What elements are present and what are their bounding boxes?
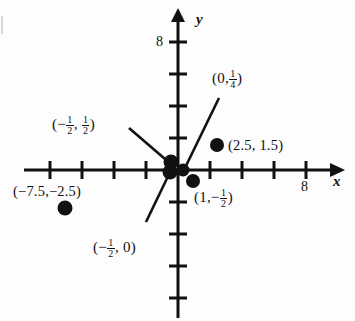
point-label-neg-half-zero: (−12, 0): [93, 238, 136, 259]
label-open-paren: (1,−: [194, 189, 220, 205]
point-one-neg-half: [186, 174, 200, 188]
label-open-paren: (−: [93, 239, 107, 255]
point-neg-seven-five-neg-two-five: [58, 201, 73, 216]
x-axis-tick-label-8: 8: [301, 180, 308, 194]
fraction-one-half-first: 12: [66, 115, 73, 136]
point-label-one-neg-half: (1,−12): [194, 188, 233, 209]
point-neg-half-zero: [163, 165, 178, 180]
y-axis-tick-label-8: 8: [156, 35, 163, 49]
fraction-one-half: 12: [220, 188, 227, 209]
x-axis-label: x: [333, 174, 341, 189]
coordinate-plane-svg: [0, 0, 355, 321]
label-close-paren: , 0): [115, 239, 136, 255]
label-open-paren: (0,: [212, 70, 229, 86]
label-close-paren: ): [237, 70, 242, 86]
fraction-one-quarter: 14: [229, 69, 236, 90]
y-axis-arrowhead: [171, 8, 185, 22]
leader-line-zero-quarter: [183, 98, 219, 172]
label-close-paren: ): [228, 189, 233, 205]
fraction-one-half: 12: [107, 238, 114, 259]
point-label-neg-half-half: (−12, 12): [52, 115, 95, 136]
point-two-five-one-five: [210, 138, 224, 152]
label-close-paren: ): [90, 116, 95, 132]
fraction-one-half-second: 12: [82, 115, 89, 136]
point-label-neg-seven-five: (−7.5,−2.5): [13, 184, 81, 199]
point-zero-quarter: [177, 164, 190, 177]
coordinate-plane-figure: y x 8 8 (−12, 12) (0,14) (2.5, 1.5) (1,−…: [0, 0, 355, 321]
label-open-paren: (−: [52, 116, 66, 132]
point-label-zero-quarter: (0,14): [212, 69, 242, 90]
point-label-two-five-one-five: (2.5, 1.5): [228, 138, 283, 153]
y-axis-label: y: [196, 12, 203, 27]
label-comma: ,: [74, 117, 78, 132]
